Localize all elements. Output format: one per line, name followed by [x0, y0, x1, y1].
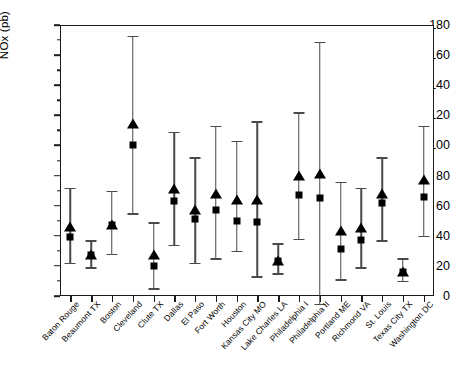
data-point-square: [67, 234, 74, 241]
data-point-triangle: [355, 223, 367, 233]
y-axis-title: NOx (pb): [0, 0, 10, 95]
data-point-triangle: [106, 220, 118, 230]
data-point-triangle: [418, 175, 430, 185]
data-point-triangle: [64, 221, 76, 231]
error-bar-cap-lower: [127, 213, 138, 215]
data-point-triangle: [210, 188, 222, 198]
error-bar-cap-upper: [252, 121, 263, 123]
data-point-triangle: [314, 169, 326, 179]
error-bar-cap-upper: [356, 188, 367, 190]
error-bar-cap-upper: [65, 188, 76, 190]
data-point-square: [171, 198, 178, 205]
data-point-triangle: [293, 170, 305, 180]
error-bar-cap-upper: [106, 191, 117, 193]
error-bar-cap-lower: [86, 267, 97, 269]
data-point-triangle: [127, 119, 139, 129]
error-bar-cap-upper: [127, 36, 138, 38]
data-point-triangle: [148, 250, 160, 260]
error-bar-cap-lower: [418, 236, 429, 238]
data-point-triangle: [397, 266, 409, 276]
nox-concentration-chart: NOx (pb) 020406080100120140160180 Baton …: [0, 0, 457, 372]
error-bar-cap-upper: [169, 132, 180, 134]
data-point-square: [150, 262, 157, 269]
error-bar-cap-lower: [190, 263, 201, 265]
error-bar-cap-upper: [210, 126, 221, 128]
data-point-triangle: [376, 188, 388, 198]
data-point-square: [192, 216, 199, 223]
data-point-square: [254, 219, 261, 226]
error-bar-cap-lower: [106, 254, 117, 256]
data-point-square: [379, 199, 386, 206]
error-bar-cap-lower: [293, 239, 304, 241]
error-bar-cap-upper: [335, 182, 346, 184]
error-bar-cap-lower: [210, 258, 221, 260]
data-point-square: [129, 142, 136, 149]
error-bar-cap-lower: [377, 240, 388, 242]
error-bar-cap-upper: [397, 258, 408, 260]
error-bar-cap-upper: [273, 243, 284, 245]
error-bar-cap-lower: [397, 281, 408, 283]
error-bar-cap-lower: [65, 263, 76, 265]
data-point-triangle: [85, 250, 97, 260]
error-bar-cap-upper: [314, 42, 325, 44]
data-point-square: [212, 207, 219, 214]
error-bar-cap-upper: [148, 222, 159, 224]
data-point-triangle: [168, 184, 180, 194]
data-point-square: [233, 217, 240, 224]
error-bar-cap-upper: [231, 141, 242, 143]
data-point-square: [358, 237, 365, 244]
error-bar-cap-upper: [293, 112, 304, 114]
data-point-triangle: [231, 194, 243, 204]
error-bar-cap-lower: [148, 288, 159, 290]
plot-area: [60, 25, 434, 296]
data-point-triangle: [251, 194, 263, 204]
error-bar-cap-lower: [356, 267, 367, 269]
data-point-triangle: [335, 226, 347, 236]
data-point-triangle: [189, 205, 201, 215]
data-point-triangle: [272, 256, 284, 266]
error-bar-cap-upper: [418, 126, 429, 128]
error-bar-cap-upper: [377, 157, 388, 159]
error-bar-cap-lower: [252, 276, 263, 278]
error-bar-cap-lower: [231, 251, 242, 253]
error-bar-cap-lower: [169, 245, 180, 247]
data-point-square: [316, 195, 323, 202]
data-point-square: [420, 193, 427, 200]
data-point-square: [295, 192, 302, 199]
data-point-square: [337, 246, 344, 253]
error-bar-cap-lower: [335, 279, 346, 281]
error-bar-cap-lower: [273, 273, 284, 275]
error-bar-cap-upper: [190, 157, 201, 159]
error-bar-cap-upper: [86, 240, 97, 242]
